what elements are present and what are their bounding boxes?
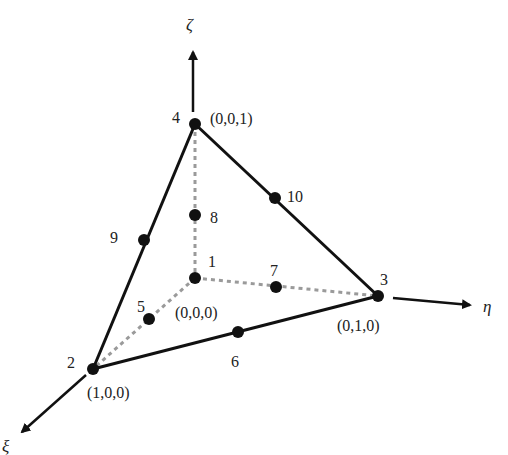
xi-label: ξ [2,437,10,455]
coord-label-4: (0,0,1) [210,110,253,128]
node-8 [189,209,201,221]
node-label-6: 6 [231,353,239,370]
node-label-5: 5 [137,298,145,315]
node-label-3: 3 [380,271,388,288]
zeta-label: ζ [186,15,194,34]
node-label-8: 8 [210,209,218,226]
node-label-4: 4 [172,109,180,126]
xi-axis [22,375,86,432]
node-3 [372,290,384,302]
node-9 [138,234,150,246]
node-label-10: 10 [287,188,303,205]
node-6 [232,326,244,338]
tetrahedron-diagram: ζ η ξ 4 1 3 2 8 9 10 7 5 6 (0,0,1) (0,0,… [0,0,508,455]
node-7 [270,281,282,293]
node-label-1: 1 [208,253,216,270]
node-1 [189,272,201,284]
node-label-2: 2 [67,354,75,371]
eta-label: η [483,297,491,316]
node-label-9: 9 [110,229,118,246]
node-2 [87,363,99,375]
node-label-7: 7 [270,262,278,279]
coord-label-3: (0,1,0) [337,317,380,335]
nodes [87,118,384,375]
node-10 [269,192,281,204]
node-4 [189,118,201,130]
coord-label-2: (1,0,0) [87,384,130,402]
eta-axis [393,298,470,305]
coord-label-1: (0,0,0) [175,304,218,322]
